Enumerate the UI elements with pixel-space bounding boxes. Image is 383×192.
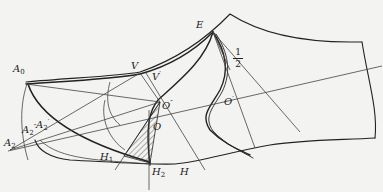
top-inner-line [26,32,213,84]
hatched-region [124,102,160,163]
fraction-one-half: 1 2 [233,48,243,69]
label-o: O [153,122,161,132]
label-o-double-prime: O″ [162,100,173,111]
vamp-curve [206,32,250,155]
label-o-prime: O′ [224,96,234,107]
right-outline [362,42,376,138]
diagram-drawing [0,0,383,192]
bottom-outline [35,138,375,164]
label-a2-prime: A2′ [36,119,49,132]
label-e: E [196,20,203,30]
label-a0: A0 [13,64,25,76]
label-h2: H2 [152,167,165,179]
line-e-3 [213,32,230,70]
label-h1: H1 [100,152,113,164]
line-a0-oo [26,84,160,102]
pattern-diagram: A0 A2 A2″ A2′ V V′ E O″ O O′ H1 H2 H 1 2 [0,0,383,192]
arc-outer [22,84,28,160]
label-a2-double-prime: A2″ [22,124,36,137]
label-a2: A2 [4,138,16,150]
label-v: V [131,61,138,71]
label-v-prime: V′ [152,71,161,82]
label-h: H [180,167,189,177]
